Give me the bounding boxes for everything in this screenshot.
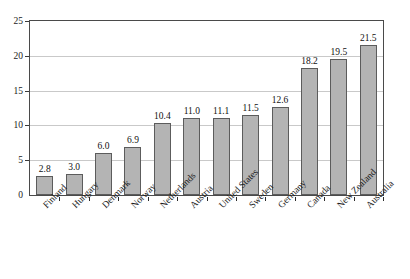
bar xyxy=(330,59,347,195)
y-axis-tick-label: 0 xyxy=(18,190,23,200)
bar-value-label: 3.0 xyxy=(58,162,90,172)
y-axis: 0510152025 xyxy=(0,0,29,200)
bars-layer: 2.83.06.06.910.411.011.111.512.618.219.5… xyxy=(29,20,384,196)
bar-value-label: 12.6 xyxy=(264,95,296,105)
y-axis-tick-label: 10 xyxy=(14,120,24,130)
y-axis-tick-label: 5 xyxy=(18,155,23,165)
y-axis-tick-label: 20 xyxy=(14,51,24,61)
bar-value-label: 10.4 xyxy=(146,111,178,121)
bar xyxy=(301,68,318,195)
y-axis-tick-label: 15 xyxy=(14,86,24,96)
bar xyxy=(213,118,230,195)
bar-value-label: 18.2 xyxy=(293,56,325,66)
bar-chart: 0510152025 2.83.06.06.910.411.011.111.51… xyxy=(0,0,410,279)
bar xyxy=(154,123,171,195)
bar-value-label: 19.5 xyxy=(323,47,355,57)
bar-value-label: 11.1 xyxy=(205,106,237,116)
bar-value-label: 21.5 xyxy=(352,33,384,43)
bar-value-label: 6.0 xyxy=(88,141,120,151)
bar-value-label: 11.0 xyxy=(176,106,208,116)
bar xyxy=(272,107,289,195)
bar-value-label: 2.8 xyxy=(29,164,61,174)
bar-value-label: 6.9 xyxy=(117,135,149,145)
bar-value-label: 11.5 xyxy=(235,103,267,113)
y-axis-tick-label: 25 xyxy=(14,16,24,26)
